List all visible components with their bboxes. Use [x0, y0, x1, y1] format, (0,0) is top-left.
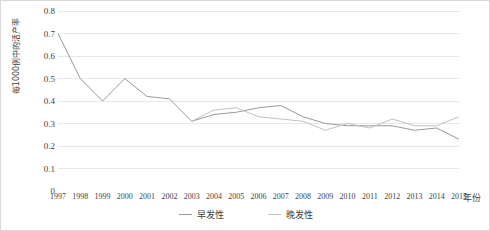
x-axis-tick-labels: 1997199819992000200120022003200420052006… — [58, 192, 459, 206]
x-tick-label: 1998 — [72, 192, 88, 201]
y-tick-label: 0.8 — [23, 6, 55, 16]
y-axis-title: 每1000例中的活产率 — [12, 0, 22, 116]
x-tick-label: 2012 — [384, 192, 400, 201]
y-tick-label: 0.2 — [23, 141, 55, 151]
x-tick-label: 1997 — [50, 192, 66, 201]
chart-container: 每1000例中的活产率 00.10.20.30.40.50.60.70.8 19… — [0, 0, 490, 231]
y-tick-label: 0.5 — [23, 74, 55, 84]
plot-area — [58, 11, 459, 191]
x-tick-label: 2005 — [228, 192, 244, 201]
legend-label: 早发性 — [197, 208, 224, 221]
x-tick-label: 2010 — [340, 192, 356, 201]
x-tick-label: 2013 — [406, 192, 422, 201]
y-axis-tick-labels: 00.10.20.30.40.50.60.70.8 — [23, 1, 55, 191]
series-line-2 — [192, 108, 459, 131]
legend-item-1[interactable]: 早发性 — [179, 208, 224, 221]
x-tick-label: 2007 — [273, 192, 289, 201]
x-tick-label: 2001 — [139, 192, 155, 201]
x-tick-label: 2009 — [317, 192, 333, 201]
legend-item-2[interactable]: 晚发性 — [268, 208, 313, 221]
y-tick-label: 0.6 — [23, 51, 55, 61]
legend-label: 晚发性 — [286, 208, 313, 221]
legend-line-icon — [268, 214, 281, 215]
chart-legend: 早发性晚发性 — [1, 208, 490, 221]
x-tick-label: 2011 — [362, 192, 378, 201]
y-tick-label: 0.7 — [23, 29, 55, 39]
chart-svg — [58, 11, 459, 191]
y-tick-label: 0.4 — [23, 96, 55, 106]
y-tick-label: 0.3 — [23, 119, 55, 129]
x-tick-label: 2014 — [429, 192, 445, 201]
x-axis-title: 年份 — [463, 191, 481, 204]
x-tick-label: 2008 — [295, 192, 311, 201]
x-tick-label: 1999 — [95, 192, 111, 201]
legend-line-icon — [179, 214, 192, 215]
x-tick-label: 2004 — [206, 192, 222, 201]
x-tick-label: 2002 — [161, 192, 177, 201]
x-tick-label: 2006 — [251, 192, 267, 201]
gridlines — [58, 11, 459, 191]
y-tick-label: 0.1 — [23, 164, 55, 174]
x-tick-label: 2000 — [117, 192, 133, 201]
x-tick-label: 2003 — [184, 192, 200, 201]
